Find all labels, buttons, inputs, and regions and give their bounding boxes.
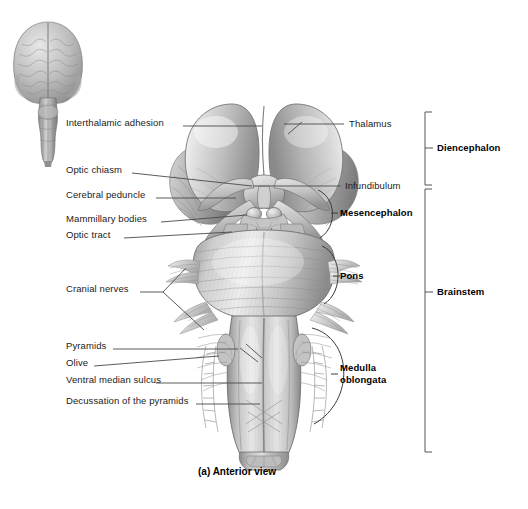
ventral-median-sulcus (263, 318, 264, 452)
label-mammillary-bodies: Mammillary bodies (66, 213, 147, 224)
label-infundibulum: Infundibulum (345, 180, 401, 191)
label-optic-chiasm: Optic chiasm (66, 164, 122, 175)
label-decussation-of-the-pyramids: Decussation of the pyramids (66, 395, 189, 406)
label-olive: Olive (66, 357, 88, 368)
label-thalamus: Thalamus (349, 118, 392, 129)
label-interthalamic-adhesion: Interthalamic adhesion (66, 117, 164, 128)
label-diencephalon: Diencephalon (437, 142, 501, 153)
label-cerebral-peduncle: Cerebral peduncle (66, 189, 145, 200)
label-pyramids: Pyramids (66, 340, 106, 351)
infundibulum (258, 186, 271, 208)
anatomy-illustration (0, 0, 528, 509)
label-optic-tract: Optic tract (66, 229, 110, 240)
label-mesencephalon: Mesencephalon (340, 207, 413, 218)
figure-brainstem-anterior: Interthalamic adhesion Optic chiasm Cere… (0, 0, 528, 509)
figure-caption: (a) Anterior view (198, 466, 276, 477)
left-olive (217, 334, 235, 366)
label-ventral-median-sulcus: Ventral median sulcus (66, 374, 161, 385)
label-brainstem: Brainstem (437, 286, 484, 297)
label-medulla-oblongata-line1: Medulla (340, 362, 376, 373)
label-cranial-nerves: Cranial nerves (66, 283, 129, 294)
label-pons: Pons (340, 270, 364, 281)
right-olive (293, 334, 311, 366)
label-medulla-oblongata-line2: oblongata (340, 374, 386, 385)
